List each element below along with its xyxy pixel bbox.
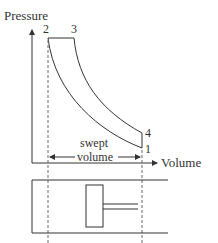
swept-label: swept: [80, 136, 109, 150]
point-3-label: 3: [71, 22, 77, 36]
point-1-label: 1: [145, 142, 151, 156]
process-1-2-compression: [48, 38, 142, 148]
point-4-label: 4: [145, 126, 151, 140]
process-3-4-expansion: [74, 38, 142, 133]
point-2-label: 2: [43, 22, 49, 36]
volume-axis-label: Volume: [161, 155, 201, 170]
volume-annotation-label: volume: [77, 150, 113, 164]
piston: [86, 185, 103, 227]
pressure-axis-label: Pressure: [4, 8, 48, 23]
pv-diagram: Pressure Volume 2 3 4 1 swept volume: [0, 0, 218, 243]
